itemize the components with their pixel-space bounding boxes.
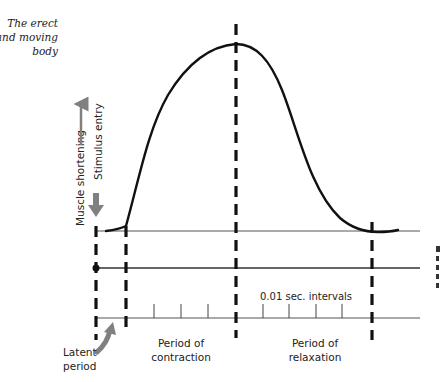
twitch-curve (106, 44, 398, 232)
latent-period-label-1: Latent (63, 346, 97, 358)
time-scale-label: 0.01 sec. intervals (260, 291, 352, 302)
adjacent-text-fragment (436, 274, 439, 279)
stimulus-arrow-icon (88, 193, 104, 217)
textbook-page: The erect and moving body (0, 0, 448, 382)
latent-period-arrow-icon (97, 330, 110, 352)
relaxation-label-2: relaxation (289, 351, 342, 363)
adjacent-text-fragment (436, 246, 440, 252)
latent-arrowhead-icon (104, 322, 116, 335)
adjacent-text-fragment (436, 283, 439, 288)
stimulus-entry-label: Stimulus entry (92, 103, 104, 180)
contraction-label-1: Period of (158, 337, 205, 349)
relaxation-label-1: Period of (292, 337, 339, 349)
latent-period-label-2: period (63, 360, 96, 372)
adjacent-text-fragment (436, 256, 439, 261)
adjacent-text-fragment (436, 265, 439, 270)
muscle-twitch-diagram: Muscle shortening Stimulus entry Latent … (0, 0, 448, 382)
contraction-label-2: contraction (151, 351, 211, 363)
time-ticks (154, 304, 342, 318)
